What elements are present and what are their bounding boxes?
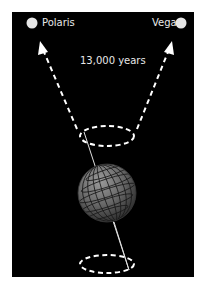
arrow-to-polaris-icon	[38, 41, 77, 129]
polaris-star-icon	[27, 18, 38, 29]
precession-illustration	[0, 0, 206, 290]
precession-period-label: 13,000 years	[80, 55, 146, 67]
earth-globe-icon	[75, 158, 139, 228]
vega-star-icon	[176, 18, 187, 29]
lower-precession-circle-icon	[80, 255, 134, 273]
polaris-label: Polaris	[42, 17, 75, 29]
diagram-canvas: Polaris Vega 13,000 years	[0, 0, 206, 290]
vega-label: Vega	[152, 17, 177, 29]
